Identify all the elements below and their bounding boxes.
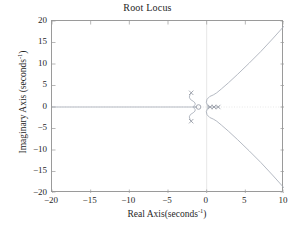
ytick-label: −10 (3, 145, 47, 154)
plot-canvas (52, 21, 284, 193)
ytick-label: −5 (3, 123, 47, 132)
xtick-label: 5 (224, 196, 264, 205)
xtick-label: −20 (31, 196, 71, 205)
locus-branch-upper-asymptote-branch (206, 26, 284, 107)
ytick-label: 10 (3, 59, 47, 68)
locus-branch-lower-asymptote-branch (206, 107, 284, 188)
xtick-label: −5 (147, 196, 187, 205)
root-locus-figure: Root Locus Imaginary Axis (seconds-1) Re… (0, 0, 295, 228)
xtick-label: −15 (70, 196, 110, 205)
x-axis-label-close: ) (203, 209, 206, 219)
x-axis-label-text: Real Axis(seconds (127, 209, 197, 219)
pole-marker-pole-lower (189, 119, 193, 123)
locus-branches (52, 26, 284, 188)
plot-area (51, 20, 283, 192)
pole-marker-pole-upper (189, 91, 193, 95)
xtick-label: −10 (108, 196, 148, 205)
locus-branch-lower-s-branch (189, 107, 196, 121)
ytick-label: 15 (3, 37, 47, 46)
ytick-label: 0 (3, 102, 47, 111)
ytick-label: 20 (3, 16, 47, 25)
page-title: Root Locus (0, 2, 295, 13)
ytick-label: −15 (3, 166, 47, 175)
ytick-label: 5 (3, 80, 47, 89)
x-axis-label: Real Axis(seconds-1) (51, 209, 283, 219)
y-axis-label-close: ) (18, 51, 28, 54)
xtick-label: 10 (263, 196, 295, 205)
xtick-label: 0 (186, 196, 226, 205)
locus-branch-upper-s-branch (189, 93, 196, 107)
